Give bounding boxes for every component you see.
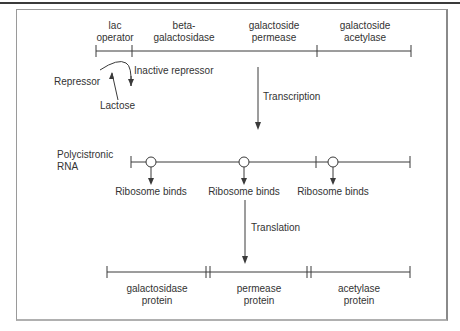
label-lac-operator: lac operator <box>92 20 138 44</box>
label-permease-protein: permease protein <box>224 283 294 307</box>
label-line: permease <box>224 283 294 295</box>
label-line: permease <box>237 32 311 44</box>
label-line: beta- <box>145 20 223 32</box>
label-galactosidase-protein: galactosidase protein <box>122 283 192 307</box>
label-line: lac <box>92 20 138 32</box>
label-line: galactosidase <box>122 283 192 295</box>
protein-line <box>107 266 410 278</box>
label-line: galactosidase <box>145 32 223 44</box>
label-translation: Translation <box>251 222 300 234</box>
label-repressor: Repressor <box>54 76 100 88</box>
label-line: protein <box>122 295 192 307</box>
repressor-arrow <box>100 62 131 86</box>
label-line: galactoside <box>328 20 402 32</box>
label-ribosome-binds-3: Ribosome binds <box>293 186 373 198</box>
label-line: Polycistronic <box>57 149 113 161</box>
label-ribosome-binds-1: Ribosome binds <box>111 186 191 198</box>
label-line: protein <box>224 295 294 307</box>
label-line: acetylase <box>324 283 394 295</box>
label-ribosome-binds-2: Ribosome binds <box>204 186 284 198</box>
label-line: operator <box>92 32 138 44</box>
label-galactoside-permease: galactoside permease <box>237 20 311 44</box>
gene-line <box>96 45 411 57</box>
label-acetylase-protein: acetylase protein <box>324 283 394 307</box>
rna-line <box>131 156 410 180</box>
label-line: protein <box>324 295 394 307</box>
label-beta-galactosidase: beta- galactosidase <box>145 20 223 44</box>
label-transcription: Transcription <box>263 91 320 103</box>
label-lactose: Lactose <box>100 100 135 112</box>
label-galactoside-acetylase: galactoside acetylase <box>328 20 402 44</box>
repressor-arrowhead <box>128 79 134 86</box>
label-line: RNA <box>57 161 113 173</box>
label-line: galactoside <box>237 20 311 32</box>
label-inactive-repressor: Inactive repressor <box>134 65 213 77</box>
label-line: acetylase <box>328 32 402 44</box>
label-polycistronic-rna: Polycistronic RNA <box>57 149 113 173</box>
